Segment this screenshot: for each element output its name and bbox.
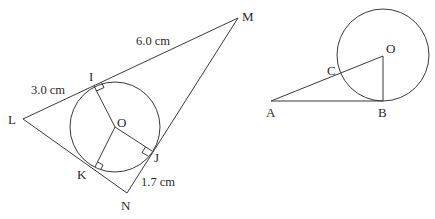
label-b: B	[378, 105, 387, 120]
triangle-lmn	[23, 18, 238, 193]
label-m: M	[242, 9, 254, 24]
radius-oj	[115, 127, 152, 151]
right-figure: A B C O	[266, 9, 429, 120]
label-c: C	[327, 63, 336, 78]
radius-oi	[94, 86, 115, 127]
radius-ok	[95, 127, 115, 167]
label-a: A	[266, 105, 276, 120]
left-figure: L M N I J K O 3.0 cm 6.0 cm 1.7 cm	[8, 9, 254, 213]
label-o-right: O	[386, 41, 395, 56]
label-k: K	[77, 167, 87, 182]
label-l: L	[8, 112, 16, 127]
label-o-left: O	[117, 115, 126, 130]
label-i: I	[89, 69, 93, 84]
label-n: N	[121, 198, 131, 213]
measure-jn: 1.7 cm	[141, 175, 175, 189]
measure-im: 6.0 cm	[136, 34, 170, 48]
measure-li: 3.0 cm	[31, 83, 65, 97]
geometry-diagram: L M N I J K O 3.0 cm 6.0 cm 1.7 cm A B C…	[0, 0, 435, 219]
label-j: J	[154, 150, 159, 165]
